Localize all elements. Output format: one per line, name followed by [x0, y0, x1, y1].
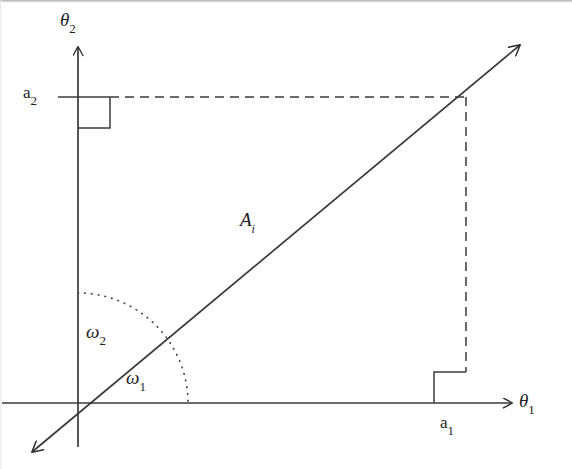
omega-2-angle-label: ω2 — [86, 322, 106, 344]
scan-edge-top — [0, 0, 572, 3]
scan-edge-left — [0, 0, 2, 469]
theta-2-axis-label: θ2 — [60, 10, 76, 32]
a2-right-angle-marker — [78, 97, 110, 128]
omega-1-angle-label: ω1 — [126, 368, 146, 390]
a1-right-angle-marker — [434, 372, 466, 403]
diagram-svg — [0, 0, 572, 469]
loading-vector-label: Ai — [240, 210, 255, 232]
loading-vector-line — [32, 45, 520, 452]
a2-coordinate-label: a2 — [23, 84, 37, 104]
figure-canvas: θ2 θ1 a2 a1 Ai ω2 ω1 — [0, 0, 572, 469]
a1-coordinate-label: a1 — [440, 414, 454, 434]
theta-1-axis-label: θ1 — [519, 391, 535, 413]
